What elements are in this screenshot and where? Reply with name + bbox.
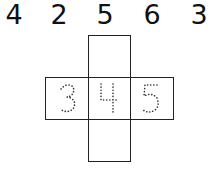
dotted-digit-4 [101,84,117,114]
dotted-digit-3 [60,85,75,112]
dotted-digits [0,0,211,181]
dotted-digit-5 [143,85,158,112]
